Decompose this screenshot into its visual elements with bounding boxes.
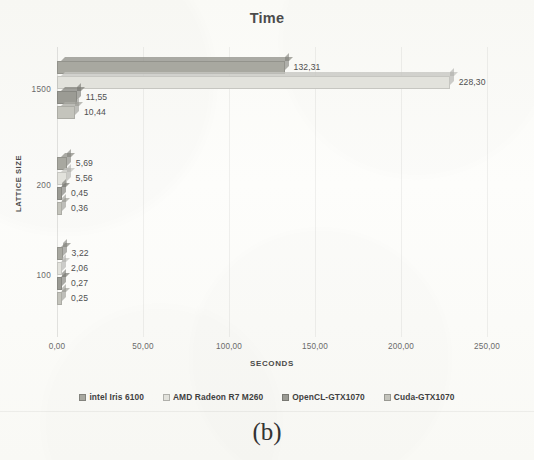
bar-side-face <box>67 164 71 181</box>
bar-value-label: 10,44 <box>84 107 106 117</box>
bar-value-label: 0,45 <box>71 188 88 198</box>
y-category-label: 100 <box>36 271 51 280</box>
plot-area: 1500132,31228,3011,5510,442005,695,560,4… <box>57 47 487 337</box>
y-category-label: 200 <box>36 181 51 190</box>
bar-row: 228,30 <box>57 76 487 89</box>
legend-swatch-icon <box>282 394 289 401</box>
x-tick-label: 50,00 <box>132 342 154 351</box>
bar-value-label: 5,69 <box>76 158 93 168</box>
legend-item[interactable]: Cuda-GTX1070 <box>384 392 455 402</box>
bar-side-face <box>62 194 66 211</box>
bar-row: 10,44 <box>57 106 487 119</box>
legend-swatch-icon <box>79 394 86 401</box>
bar-side-face <box>75 98 79 115</box>
bar-group: 2005,695,560,450,36 <box>57 157 487 217</box>
bar-front-face <box>57 76 450 89</box>
bar-side-face <box>450 68 454 85</box>
bar-side-face <box>285 53 289 70</box>
x-tick-label: 200,00 <box>388 342 414 351</box>
legend-swatch-icon <box>163 394 170 401</box>
bar-row: 3,22 <box>57 247 487 260</box>
bar[interactable] <box>57 202 62 215</box>
x-tick-label: 0,00 <box>49 342 66 351</box>
bar-row: 2,06 <box>57 262 487 275</box>
page-divider <box>0 411 534 412</box>
bar-front-face <box>57 202 62 215</box>
x-tick-label: 150,00 <box>302 342 328 351</box>
x-axis-title: SECONDS <box>57 359 487 368</box>
chart-title: Time <box>0 10 534 26</box>
bar[interactable] <box>57 76 450 89</box>
bar-value-label: 2,06 <box>71 263 88 273</box>
bar-row: 5,69 <box>57 157 487 170</box>
bar-value-label: 11,55 <box>86 92 107 102</box>
y-axis-title: LATTICE SIZE <box>14 155 23 212</box>
bar-row: 0,25 <box>57 292 487 305</box>
bar-value-label: 132,31 <box>294 62 321 72</box>
bar-row: 11,55 <box>57 91 487 104</box>
x-tick-label: 100,00 <box>216 342 242 351</box>
bar-value-label: 0,25 <box>71 293 88 303</box>
bar-value-label: 5,56 <box>76 173 93 183</box>
bar-row: 5,56 <box>57 172 487 185</box>
legend-swatch-icon <box>384 394 391 401</box>
bar[interactable] <box>57 292 62 305</box>
bar-row: 0,27 <box>57 277 487 290</box>
bar[interactable] <box>57 106 75 119</box>
gridline <box>487 47 488 337</box>
bar-front-face <box>57 106 75 119</box>
chart-figure: Time 1500132,31228,3011,5510,442005,695,… <box>0 0 534 415</box>
legend-label: Cuda-GTX1070 <box>394 392 455 402</box>
bar-value-label: 228,30 <box>459 77 486 87</box>
legend-label: AMD Radeon R7 M260 <box>173 392 263 402</box>
legend-label: OpenCL-GTX1070 <box>292 392 365 402</box>
bar-row: 0,45 <box>57 187 487 200</box>
bar-group: 1500132,31228,3011,5510,44 <box>57 61 487 121</box>
bar-group: 1003,222,060,270,25 <box>57 247 487 307</box>
chart-legend: intel Iris 6100AMD Radeon R7 M260OpenCL-… <box>0 392 534 402</box>
bar-front-face <box>57 292 62 305</box>
legend-item[interactable]: OpenCL-GTX1070 <box>282 392 365 402</box>
x-tick-label: 250,00 <box>474 342 500 351</box>
legend-item[interactable]: intel Iris 6100 <box>79 392 144 402</box>
legend-item[interactable]: AMD Radeon R7 M260 <box>163 392 263 402</box>
bar-value-label: 0,27 <box>71 278 88 288</box>
y-category-label: 1500 <box>32 85 51 94</box>
bar-value-label: 3,22 <box>72 248 89 258</box>
bar-value-label: 0,36 <box>71 203 88 213</box>
bar-row: 0,36 <box>57 202 487 215</box>
figure-caption: (b) <box>0 418 534 446</box>
legend-label: intel Iris 6100 <box>89 392 144 402</box>
bar-side-face <box>62 284 66 301</box>
